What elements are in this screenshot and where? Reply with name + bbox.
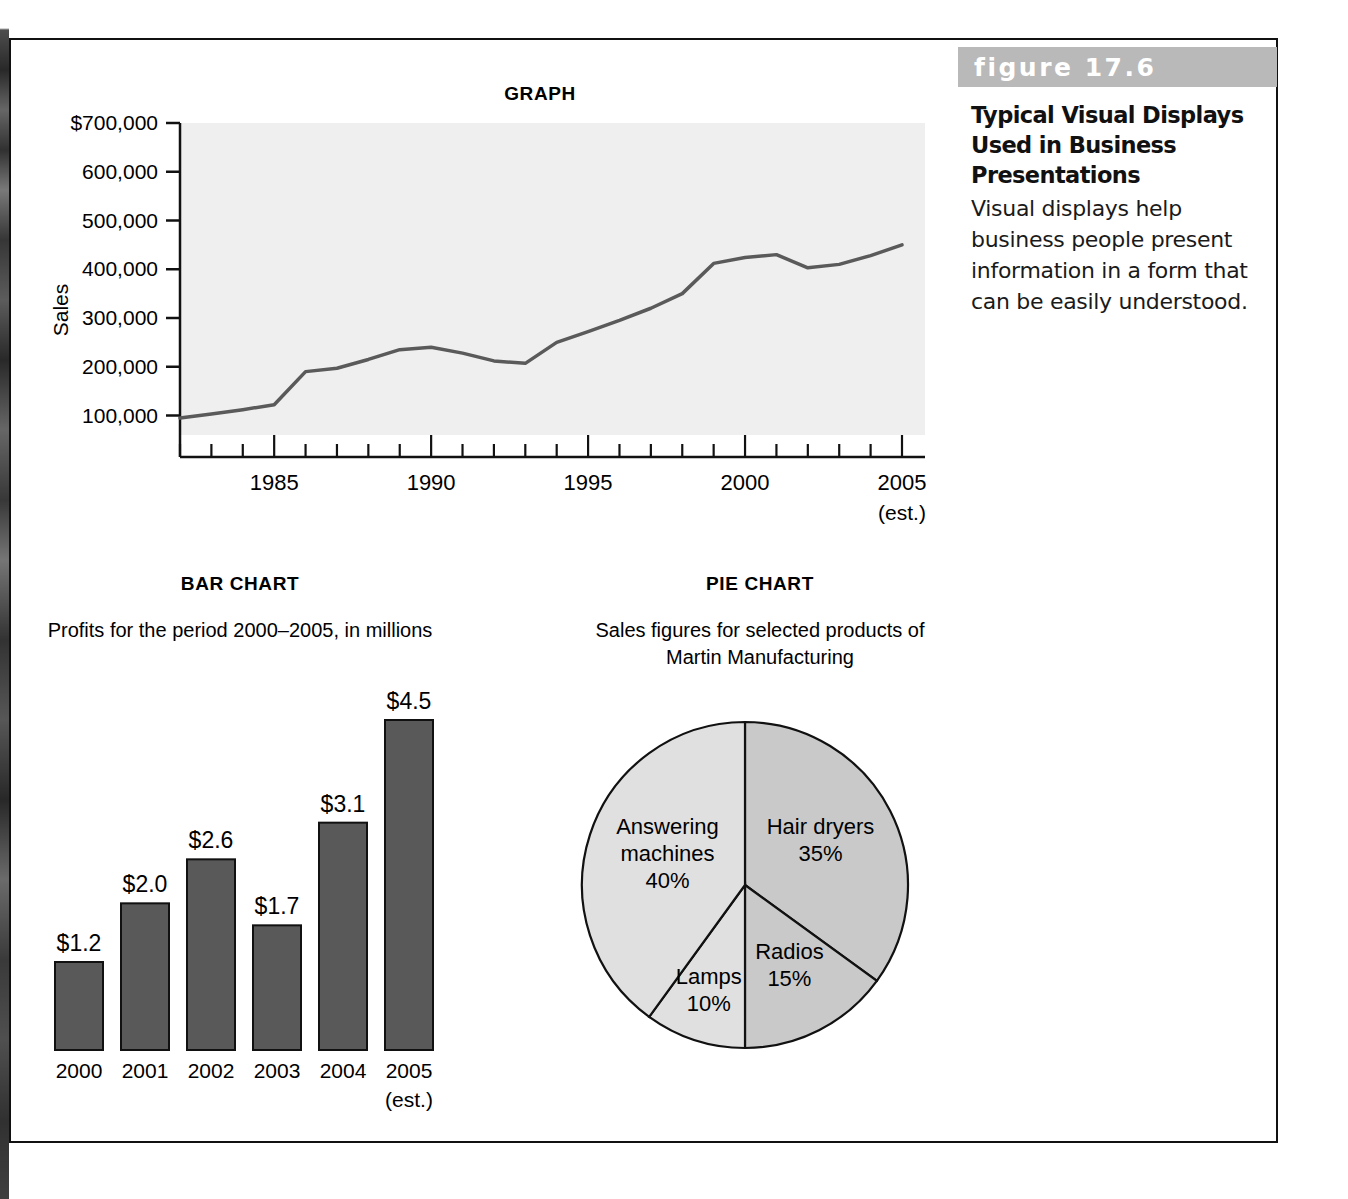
- bar-category-label: 2001: [122, 1059, 169, 1082]
- bar-category-label: 2005: [386, 1059, 433, 1082]
- y-axis-tick-labels: $700,000600,000500,000400,000300,000200,…: [70, 111, 158, 427]
- y-axis-ticks: [166, 123, 180, 416]
- bar-value-label: $4.5: [387, 688, 432, 714]
- bar: [55, 962, 103, 1050]
- pie-slice-label: 10%: [687, 991, 731, 1016]
- y-axis-title: Sales: [49, 284, 72, 337]
- bar-category-label: 2000: [56, 1059, 103, 1082]
- y-tick-label: 300,000: [82, 306, 158, 329]
- figure-number-label: figure 17.6: [974, 53, 1156, 82]
- figure-title: Typical Visual Displays Used in Business…: [971, 100, 1261, 190]
- bar-category-label: 2004: [320, 1059, 367, 1082]
- pie-slice-label: Answering: [616, 814, 719, 839]
- x-axis-tick-labels: 19851990199520002005: [250, 470, 927, 495]
- figure-caption: Typical Visual Displays Used in Business…: [971, 100, 1261, 317]
- bar-value-label: $1.2: [57, 930, 102, 956]
- y-tick-label: $700,000: [70, 111, 158, 134]
- bar-chart-subtitle: Profits for the period 2000–2005, in mil…: [35, 617, 445, 644]
- y-tick-label: 600,000: [82, 160, 158, 183]
- bar-chart-title: BAR CHART: [40, 573, 440, 595]
- bar-category-label: 2002: [188, 1059, 235, 1082]
- x-tick-label: 1990: [407, 470, 456, 495]
- line-chart: $700,000600,000500,000400,000300,000200,…: [40, 105, 940, 530]
- y-tick-label: 100,000: [82, 404, 158, 427]
- y-tick-label: 200,000: [82, 355, 158, 378]
- pie-slice-label: Radios: [755, 939, 823, 964]
- figure-header-bar: figure 17.6: [958, 47, 1277, 87]
- x-tick-label: 1995: [564, 470, 613, 495]
- bar-value-label: $2.0: [123, 871, 168, 897]
- pie-slice-label: 40%: [645, 868, 689, 893]
- bar-value-labels: $1.2$2.0$2.6$1.7$3.1$4.5: [57, 688, 432, 956]
- y-tick-label: 400,000: [82, 257, 158, 280]
- x-axis-ticks: [180, 435, 902, 457]
- bar: [187, 859, 235, 1050]
- figure-description: Visual displays help business people pre…: [971, 193, 1261, 317]
- bar-category-labels: 200020012002200320042005: [56, 1059, 433, 1082]
- bar-value-label: $2.6: [189, 827, 234, 853]
- x-tick-label: 2005: [878, 470, 927, 495]
- scan-edge-artifact: [0, 0, 9, 1199]
- bar-chart: $1.2$2.0$2.6$1.7$3.1$4.5 200020012002200…: [25, 660, 465, 1140]
- bar: [385, 720, 433, 1050]
- pie-slice-label: Lamps: [676, 964, 742, 989]
- x-axis-note: (est.): [878, 501, 926, 524]
- bar: [319, 823, 367, 1050]
- bar-category-note: (est.): [385, 1088, 433, 1111]
- pie-slice-label: 15%: [767, 966, 811, 991]
- bar-value-label: $3.1: [321, 791, 366, 817]
- bar-series: [55, 720, 433, 1050]
- y-tick-label: 500,000: [82, 209, 158, 232]
- pie-slice-label: machines: [620, 841, 714, 866]
- pie-slice-label: 35%: [798, 841, 842, 866]
- pie-chart: Hair dryers35%Radios15%Lamps10%Answering…: [560, 700, 980, 1100]
- pie-slice-label: Hair dryers: [767, 814, 875, 839]
- bar-category-label: 2003: [254, 1059, 301, 1082]
- bar: [253, 925, 301, 1050]
- pie-chart-subtitle: Sales figures for selected products of M…: [590, 617, 930, 671]
- bar: [121, 903, 169, 1050]
- x-tick-label: 1985: [250, 470, 299, 495]
- bar-value-label: $1.7: [255, 893, 300, 919]
- line-chart-title: GRAPH: [310, 83, 770, 105]
- pie-chart-title: PIE CHART: [580, 573, 940, 595]
- pie-slices: [582, 722, 908, 1048]
- x-tick-label: 2000: [721, 470, 770, 495]
